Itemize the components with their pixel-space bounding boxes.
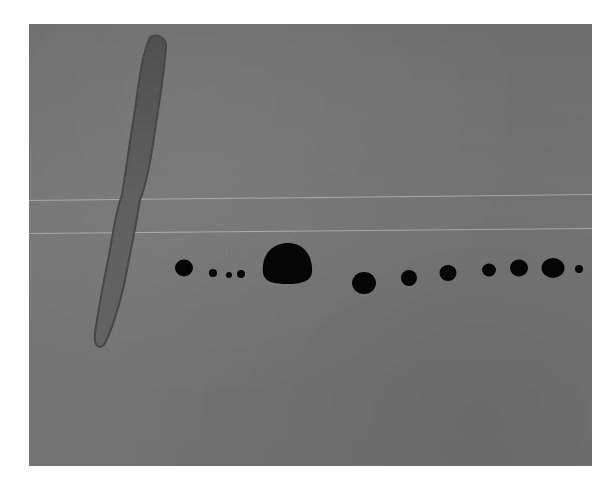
dot bbox=[542, 258, 565, 278]
dot bbox=[237, 270, 245, 278]
dot bbox=[352, 272, 376, 294]
painting-artwork bbox=[0, 0, 610, 493]
dot bbox=[226, 272, 232, 278]
dot-large bbox=[263, 243, 312, 284]
dot bbox=[575, 265, 583, 273]
brush-stroke bbox=[95, 36, 166, 347]
dot bbox=[510, 260, 528, 277]
dot-row bbox=[175, 243, 583, 294]
dot bbox=[482, 264, 496, 277]
dot bbox=[440, 265, 457, 281]
dot bbox=[401, 270, 417, 286]
dot bbox=[175, 260, 193, 277]
dot bbox=[209, 269, 217, 277]
